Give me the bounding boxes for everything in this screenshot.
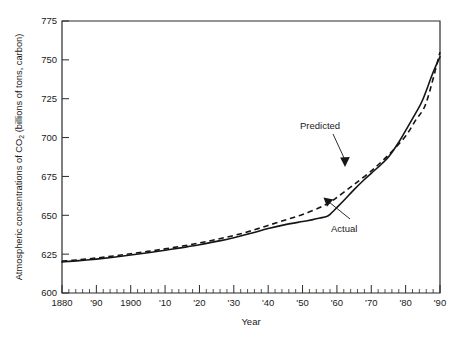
chart-canvas: 600625650675700725750775 1880'901900'10'… [0,0,466,344]
y-tick-label: 625 [41,249,57,260]
x-tick-label: '90 [90,297,102,308]
annotation-predicted [333,134,350,167]
x-axis-title: Year [241,316,260,327]
plot-frame [62,21,440,293]
predicted-arrowhead-icon [340,157,350,167]
x-tick-label: '10 [159,297,171,308]
co2-concentration-chart: 600625650675700725750775 1880'901900'10'… [0,0,466,344]
series-predicted-line [62,52,440,261]
plot-border [62,21,440,293]
x-tick-label: '20 [193,297,205,308]
y-tick-label: 725 [41,93,57,104]
y-tick-label: 675 [41,171,57,182]
x-tick-label: 1900 [120,297,141,308]
y-tick-label: 775 [41,15,57,26]
y-tick-label: 700 [41,132,57,143]
x-tick-label: '40 [262,297,274,308]
y-axis-ticks [62,21,69,293]
x-tick-label: '30 [228,297,240,308]
y-axis-title: Atmospheric concentrations of CO2 (billi… [14,34,25,281]
y-axis-title-part-after: (billions of tons, carbon) [14,34,24,135]
actual-annotation-label: Actual [331,223,357,234]
x-tick-label: '60 [331,297,343,308]
x-axis-tick-labels: 1880'901900'10'20'30'40'50'60'70'80'90 [51,297,446,308]
x-tick-label: 1880 [51,297,72,308]
predicted-leader-line [333,134,345,160]
x-tick-label: '70 [365,297,377,308]
x-axis-ticks [62,285,440,293]
predicted-annotation-label: Predicted [300,120,340,131]
x-tick-label: '90 [434,297,446,308]
x-tick-label: '50 [296,297,308,308]
y-tick-label: 750 [41,54,57,65]
x-tick-label: '80 [399,297,411,308]
y-axis-tick-labels: 600625650675700725750775 [41,15,57,298]
y-axis-title-part-before: Atmospheric concentrations of CO [14,139,24,281]
y-tick-label: 650 [41,210,57,221]
